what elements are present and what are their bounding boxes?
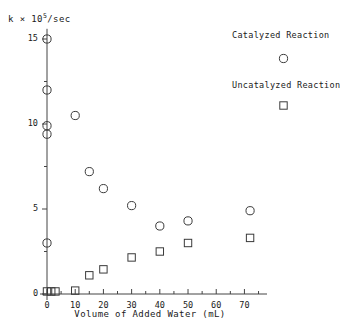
- legend-label-uncatalyzed: Uncatalyzed Reaction: [232, 80, 340, 90]
- data-point-catalyzed: [71, 111, 79, 119]
- x-axis-tick-label: 60: [207, 300, 225, 310]
- y-axis-tick-label: 15: [14, 33, 38, 43]
- data-point-uncatalyzed: [246, 234, 253, 241]
- data-point-catalyzed: [184, 217, 192, 225]
- y-axis-label-prefix: k × 10: [8, 14, 43, 24]
- y-axis-tick-label: 5: [14, 203, 38, 213]
- x-axis-label: Volume of Added Water (mL): [0, 309, 300, 319]
- data-point-uncatalyzed: [156, 248, 163, 255]
- y-axis-tick-label: 0: [14, 288, 38, 298]
- x-axis-tick-label: 10: [66, 300, 84, 310]
- y-axis-label-suffix: /sec: [47, 14, 70, 24]
- data-point-catalyzed: [85, 168, 93, 176]
- data-point-uncatalyzed: [128, 254, 135, 261]
- x-axis-tick-label: 30: [123, 300, 141, 310]
- data-point-uncatalyzed: [86, 272, 93, 279]
- data-point-uncatalyzed: [184, 239, 191, 246]
- y-axis-tick-label: 10: [14, 118, 38, 128]
- x-axis-tick-label: 70: [235, 300, 253, 310]
- legend-marker-circle-icon: [278, 53, 289, 64]
- data-point-catalyzed: [156, 222, 164, 230]
- data-point-catalyzed: [99, 185, 107, 193]
- legend-marker-square-icon: [278, 100, 289, 111]
- x-axis-tick-label: 40: [151, 300, 169, 310]
- x-axis-tick-label: 20: [94, 300, 112, 310]
- data-point-catalyzed: [128, 202, 136, 210]
- data-point-catalyzed: [246, 207, 254, 215]
- data-point-uncatalyzed: [100, 266, 107, 273]
- x-axis-tick-label: 50: [179, 300, 197, 310]
- legend-label-catalyzed: Catalyzed Reaction: [232, 30, 330, 40]
- x-axis-tick-label: 0: [38, 300, 56, 310]
- y-axis-label: k × 105/sec: [8, 12, 71, 24]
